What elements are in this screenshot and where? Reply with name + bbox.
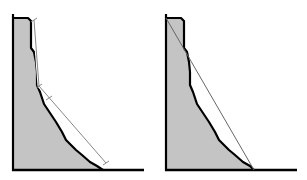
left-panel	[0, 0, 153, 180]
right-profile-diagram	[153, 0, 307, 180]
left-profile-fill	[13, 18, 103, 170]
left-profile-diagram	[0, 0, 153, 180]
right-panel	[153, 0, 306, 180]
